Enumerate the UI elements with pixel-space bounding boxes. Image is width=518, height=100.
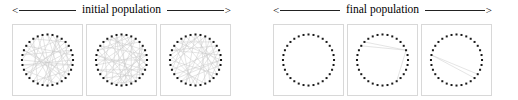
graph-node [146, 54, 148, 56]
graph-node [286, 45, 288, 47]
graph-node [481, 54, 483, 56]
graph-node [173, 73, 175, 75]
graph-node [446, 35, 448, 37]
graph-node [358, 49, 360, 51]
graph-node [194, 33, 196, 35]
graph-canvas [161, 25, 230, 95]
graph-edge [431, 55, 474, 78]
graph-node [377, 84, 379, 86]
graph-node [142, 73, 144, 75]
graph-node [68, 73, 70, 75]
graph-node [111, 35, 113, 37]
graph-panel-initial-3 [160, 24, 231, 96]
group-label: initial population [77, 4, 166, 16]
graph-node [405, 49, 407, 51]
label-rule-right [167, 10, 224, 11]
graph-node [331, 49, 333, 51]
group-label-row-final: <final population> [273, 0, 492, 20]
graph-node [135, 38, 137, 40]
graph-node [451, 34, 453, 36]
graph-node [146, 64, 148, 66]
graph-node [139, 77, 141, 79]
graph-node [282, 64, 284, 66]
graph-node [190, 84, 192, 86]
graph-node [95, 64, 97, 66]
graph-panel-initial-2 [86, 24, 157, 96]
graph-node [180, 38, 182, 40]
graph-node [72, 59, 74, 61]
arrow-right-icon: > [225, 5, 231, 16]
graph-node [470, 80, 472, 82]
population-group-final: <final population> [273, 0, 492, 100]
graph-edges [431, 55, 477, 78]
graph-node [56, 83, 58, 85]
graph-edge [397, 50, 406, 81]
graph-node [286, 73, 288, 75]
graph-node [180, 80, 182, 82]
graph-node [396, 80, 398, 82]
graph-node [72, 54, 74, 56]
graph-node [430, 64, 432, 66]
graph-node [95, 54, 97, 56]
graph-node [455, 85, 457, 87]
graph-node [99, 73, 101, 75]
graph-node [403, 73, 405, 75]
graph-node [21, 54, 23, 56]
graph-node [32, 38, 34, 40]
graph-node [481, 64, 483, 66]
graph-node [312, 34, 314, 36]
graph-node [56, 35, 58, 37]
graph-node [216, 73, 218, 75]
graph-node [372, 83, 374, 85]
graph-node [434, 45, 436, 47]
graph-node [37, 83, 39, 85]
graph-node [97, 69, 99, 71]
graph-node [218, 69, 220, 71]
graph-node [326, 41, 328, 43]
graph-node [102, 77, 104, 79]
graph-node [460, 84, 462, 86]
graph-node [37, 35, 39, 37]
graph-node [65, 77, 67, 79]
graph-edge [29, 35, 42, 78]
graph-node [220, 54, 222, 56]
graph-edge [172, 46, 217, 50]
graph-edge [33, 39, 61, 81]
graph-node [282, 54, 284, 56]
graph-node [120, 33, 122, 35]
graph-node [303, 34, 305, 36]
graph-node [185, 35, 187, 37]
graph-node [209, 80, 211, 82]
graph-node [356, 54, 358, 56]
graph-node [322, 38, 324, 40]
graph-node [430, 59, 432, 61]
graph-node [322, 80, 324, 82]
graph-node [284, 69, 286, 71]
graph-node [407, 59, 409, 61]
graph-node [25, 73, 27, 75]
graph-node [333, 64, 335, 66]
graph-node [465, 83, 467, 85]
graph-node [326, 77, 328, 79]
graph-node [139, 41, 141, 43]
graph-node [470, 38, 472, 40]
graph-node [303, 84, 305, 86]
graph-edge [361, 46, 406, 50]
graph-node [430, 54, 432, 56]
graph-node [437, 41, 439, 43]
graph-node [169, 59, 171, 61]
graph-node [289, 41, 291, 43]
graph-node [284, 49, 286, 51]
graph-node [386, 84, 388, 86]
graph-node [367, 80, 369, 82]
arrow-right-icon: > [486, 5, 492, 16]
graph-node [307, 85, 309, 87]
graph-edges [361, 42, 406, 81]
graph-node [32, 80, 34, 82]
label-rule-right [425, 10, 485, 11]
graph-node [317, 35, 319, 37]
graph-node [407, 54, 409, 56]
graph-node [116, 34, 118, 36]
graph-node [97, 49, 99, 51]
graph-node [367, 38, 369, 40]
